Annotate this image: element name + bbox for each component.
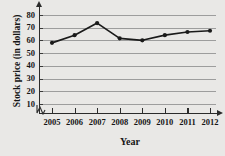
x-tick-mark <box>142 108 143 114</box>
line-chart-figure: Stock price (in dollars) Year 1020304050… <box>0 0 225 156</box>
x-tick-mark <box>52 108 53 114</box>
x-axis-title: Year <box>40 136 220 147</box>
y-tick-label: 50 <box>17 49 35 58</box>
y-tick-mark <box>40 40 43 41</box>
axis-break-icon <box>36 104 49 115</box>
y-tick-label: 40 <box>17 61 35 70</box>
y-axis-line <box>39 6 40 114</box>
y-tick-label: 60 <box>17 36 35 45</box>
y-tick-mark <box>40 66 43 67</box>
gridline <box>40 79 216 80</box>
y-tick-label: 30 <box>17 74 35 83</box>
y-tick-mark <box>40 28 43 29</box>
gridline <box>40 53 216 54</box>
y-tick-label: 80 <box>17 11 35 20</box>
x-tick-mark <box>75 108 76 114</box>
gridline <box>40 40 216 41</box>
gridline <box>40 104 216 105</box>
plot-area <box>40 10 220 113</box>
x-tick-mark <box>165 108 166 114</box>
y-tick-mark <box>40 79 43 80</box>
x-tick-mark <box>97 108 98 114</box>
x-tick-mark <box>210 108 211 114</box>
x-tick-mark <box>120 108 121 114</box>
gridline <box>40 66 216 67</box>
x-axis-arrow-icon <box>217 110 223 116</box>
gridline <box>40 28 216 29</box>
x-tick-mark <box>187 108 188 114</box>
x-axis-line <box>39 113 219 114</box>
y-tick-label: 10 <box>17 100 35 109</box>
y-tick-label: 20 <box>17 87 35 96</box>
y-tick-mark <box>40 53 43 54</box>
gridline <box>40 91 216 92</box>
gridline <box>40 15 216 16</box>
y-axis-arrow-icon <box>36 1 42 7</box>
x-tick-label: 2012 <box>193 117 225 127</box>
y-tick-mark <box>40 15 43 16</box>
y-tick-label: 70 <box>17 23 35 32</box>
y-tick-mark <box>40 91 43 92</box>
